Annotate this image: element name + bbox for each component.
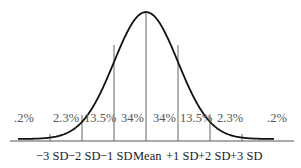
sd-label-plus-3: +3 SD — [230, 149, 262, 163]
sd-label-minus-3: −3 SD — [36, 149, 68, 163]
sd-label-minus-2: −2 SD — [68, 149, 100, 163]
pct-label-tail-left: .2% — [14, 111, 34, 125]
pct-label-tail-right: .2% — [267, 111, 287, 125]
pct-label-minus-1-to-mean: 34% — [121, 111, 144, 125]
pct-label-plus-1-to-2: 13.5% — [180, 111, 212, 125]
normal-distribution-figure: .2% 2.3% 13.5% 34% 34% 13.5% 2.3% .2% −3… — [0, 0, 301, 168]
sd-label-mean: Mean — [133, 149, 162, 163]
pct-label-plus-2-to-3: 2.3% — [217, 111, 243, 125]
sd-label-minus-1: −1 SD — [100, 149, 132, 163]
sd-label-plus-1: +1 SD — [166, 149, 198, 163]
bell-curve-diagram: .2% 2.3% 13.5% 34% 34% 13.5% 2.3% .2% −3… — [0, 0, 301, 168]
pct-label-mean-to-plus-1: 34% — [153, 111, 176, 125]
pct-label-minus-2-to-1: 13.5% — [84, 111, 116, 125]
pct-label-minus-3-to-2: 2.3% — [53, 111, 79, 125]
sd-label-plus-2: +2 SD — [198, 149, 230, 163]
